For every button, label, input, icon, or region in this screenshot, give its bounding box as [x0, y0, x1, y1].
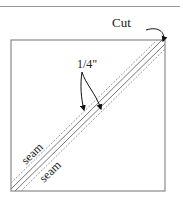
seam-label-lower: seam — [36, 157, 64, 185]
cut-label: Cut — [112, 15, 131, 30]
cut-arrow-icon — [146, 29, 164, 41]
quarter-inch-label: 1/4" — [77, 57, 97, 71]
seam-label-upper: seam — [18, 139, 46, 167]
quarter-inch-arrow-left-icon — [81, 72, 84, 110]
quilt-square-diagram: Cut 1/4" seam seam — [0, 0, 183, 206]
